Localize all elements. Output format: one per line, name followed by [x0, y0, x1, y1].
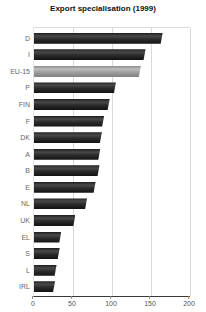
bar-irl — [34, 281, 55, 292]
x-tick-mark — [150, 296, 151, 299]
bar-fin — [34, 99, 110, 110]
bar-uk — [34, 215, 75, 226]
bars-container: DIEU-15PFINFDKABENLUKELSLIRL — [34, 28, 190, 296]
bar-nl — [34, 198, 87, 209]
chart-row-nl: NL — [34, 196, 190, 213]
chart-row-el: EL — [34, 229, 190, 246]
category-label-e: E — [25, 184, 30, 191]
bar-b — [34, 165, 100, 176]
chart-row-dk: DK — [34, 129, 190, 146]
chart-row-l: L — [34, 262, 190, 279]
export-specialisation-chart: Export specialisation (1999) DIEU-15PFIN… — [0, 0, 206, 312]
x-tick-200: 200 — [183, 296, 195, 307]
x-tick-mark — [33, 296, 34, 299]
chart-row-fin: FIN — [34, 96, 190, 113]
x-tick-label: 150 — [144, 300, 156, 307]
x-tick-mark — [189, 296, 190, 299]
category-label-s: S — [25, 250, 30, 257]
category-label-b: B — [25, 167, 30, 174]
category-label-l: L — [26, 267, 30, 274]
chart-row-irl: IRL — [34, 278, 190, 295]
chart-row-e: E — [34, 179, 190, 196]
category-label-irl: IRL — [19, 283, 30, 290]
bar-s — [34, 248, 60, 259]
x-tick-label: 50 — [68, 300, 76, 307]
category-label-fin: FIN — [19, 101, 30, 108]
bar-dk — [34, 132, 102, 143]
bar-i — [34, 49, 146, 60]
chart-row-uk: UK — [34, 212, 190, 229]
gridline-200 — [190, 28, 191, 296]
x-tick-mark — [111, 296, 112, 299]
chart-row-s: S — [34, 245, 190, 262]
chart-row-d: D — [34, 30, 190, 47]
bar-l — [34, 265, 57, 276]
category-label-nl: NL — [21, 200, 30, 207]
x-tick-50: 50 — [68, 296, 76, 307]
x-tick-100: 100 — [105, 296, 117, 307]
chart-row-eu-15: EU-15 — [34, 63, 190, 80]
chart-row-i: I — [34, 47, 190, 64]
chart-row-p: P — [34, 80, 190, 97]
bar-f — [34, 116, 104, 127]
bar-eu-15 — [34, 66, 141, 77]
category-label-p: P — [25, 84, 30, 91]
x-tick-0: 0 — [31, 296, 35, 307]
category-label-dk: DK — [20, 134, 30, 141]
category-label-d: D — [25, 35, 30, 42]
bar-p — [34, 82, 116, 93]
x-tick-label: 200 — [183, 300, 195, 307]
x-axis: 050100150200 — [33, 296, 189, 310]
chart-row-b: B — [34, 163, 190, 180]
category-label-uk: UK — [20, 217, 30, 224]
x-tick-label: 100 — [105, 300, 117, 307]
x-tick-label: 0 — [31, 300, 35, 307]
bar-a — [34, 149, 100, 160]
category-label-el: EL — [21, 234, 30, 241]
plot-area: DIEU-15PFINFDKABENLUKELSLIRL — [33, 27, 190, 297]
x-tick-mark — [71, 296, 72, 299]
category-label-i: I — [28, 51, 30, 58]
chart-title: Export specialisation (1999) — [0, 4, 206, 13]
category-label-eu-15: EU-15 — [10, 68, 30, 75]
category-label-f: F — [26, 118, 30, 125]
chart-row-f: F — [34, 113, 190, 130]
bar-d — [34, 33, 163, 44]
bar-el — [34, 232, 61, 243]
x-tick-150: 150 — [144, 296, 156, 307]
category-label-a: A — [25, 151, 30, 158]
chart-row-a: A — [34, 146, 190, 163]
bar-e — [34, 182, 96, 193]
